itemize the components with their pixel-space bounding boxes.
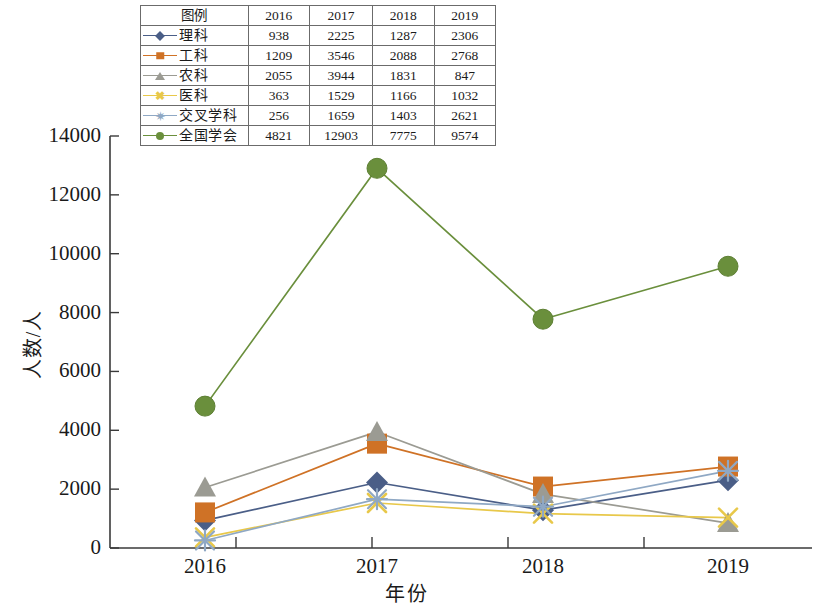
legend-value-cell: 1831	[373, 66, 434, 86]
legend-value-cell: 3944	[310, 66, 373, 86]
legend-series-cell: 工科	[141, 46, 249, 66]
legend-header-year: 2017	[310, 6, 373, 26]
legend-series-label: 医科	[179, 86, 208, 105]
legend-series-cell: 农科	[141, 66, 249, 86]
y-tick-label: 12000	[49, 184, 102, 205]
legend-circle-icon	[156, 132, 164, 140]
data-point-circle	[195, 396, 215, 416]
series-line-square	[205, 444, 728, 513]
legend-data-table: 图例2016201720182019理科938222512872306工科120…	[140, 5, 496, 146]
data-point-square	[195, 502, 215, 522]
data-point-star	[195, 530, 215, 550]
legend-value-cell: 256	[248, 106, 309, 126]
legend-star-icon: ✷	[155, 109, 166, 122]
legend-value-cell: 9574	[434, 126, 495, 146]
data-point-circle	[718, 256, 738, 276]
legend-value-cell: 1032	[434, 86, 495, 106]
y-tick-label: 14000	[49, 125, 102, 146]
data-point-circle	[533, 309, 553, 329]
legend-marker-x: ✖	[143, 87, 177, 104]
legend-diamond-icon	[155, 31, 165, 41]
legend-row: 全国学会48211290377759574	[141, 126, 496, 146]
data-point-triangle	[194, 477, 216, 497]
legend-header-year: 2019	[434, 6, 495, 26]
series-lines	[205, 168, 728, 540]
axis-lines	[110, 136, 812, 548]
legend-triangle-icon	[155, 72, 165, 80]
legend-series-cell: 全国学会	[141, 126, 249, 146]
legend-series-label: 工科	[179, 46, 208, 65]
chart-figure: 14000120001000080006000400020000 2016201…	[0, 0, 815, 606]
legend-value-cell: 1403	[373, 106, 434, 126]
y-tick-label: 2000	[59, 478, 101, 499]
legend-series-cell: 理科	[141, 26, 249, 46]
y-axis-title: 人数/人	[17, 290, 46, 400]
legend-row: ✖医科363152911661032	[141, 86, 496, 106]
legend-value-cell: 12903	[310, 126, 373, 146]
legend-header-year: 2018	[373, 6, 434, 26]
data-point-circle	[367, 158, 387, 178]
legend-value-cell: 2225	[310, 26, 373, 46]
y-tick-label: 0	[91, 537, 102, 558]
legend-value-cell: 1287	[373, 26, 434, 46]
legend-marker-triangle	[143, 67, 177, 84]
legend-series-label: 交叉学科	[179, 106, 237, 125]
legend-header-row: 图例2016201720182019	[141, 6, 496, 26]
legend-series-label: 全国学会	[179, 126, 237, 145]
legend-value-cell: 2088	[373, 46, 434, 66]
data-point-star	[718, 461, 738, 481]
x-tick-label: 2018	[503, 554, 583, 579]
legend-value-cell: 1659	[310, 106, 373, 126]
legend-header-label: 图例	[141, 6, 249, 26]
legend-value-cell: 1529	[310, 86, 373, 106]
legend-marker-circle	[143, 127, 177, 144]
x-tick-label: 2016	[165, 554, 245, 579]
data-point-triangle	[366, 421, 388, 441]
legend-value-cell: 938	[248, 26, 309, 46]
x-axis-title: 年份	[385, 578, 429, 606]
legend-series-cell: ✖医科	[141, 86, 249, 106]
legend-row: 工科1209354620882768	[141, 46, 496, 66]
series-line-x	[205, 503, 728, 537]
legend-value-cell: 2768	[434, 46, 495, 66]
legend-value-cell: 363	[248, 86, 309, 106]
legend-row: 农科205539441831847	[141, 66, 496, 86]
y-tick-label: 10000	[49, 243, 102, 264]
legend-value-cell: 847	[434, 66, 495, 86]
legend-marker-square	[143, 47, 177, 64]
legend-marker-diamond	[143, 27, 177, 44]
legend-value-cell: 4821	[248, 126, 309, 146]
legend-value-cell: 2306	[434, 26, 495, 46]
legend-marker-star: ✷	[143, 107, 177, 124]
y-tick-label: 8000	[59, 302, 101, 323]
legend-value-cell: 2055	[248, 66, 309, 86]
legend-row: 理科938222512872306	[141, 26, 496, 46]
x-tick-label: 2017	[337, 554, 417, 579]
series-line-circle	[205, 168, 728, 406]
legend-value-cell: 7775	[373, 126, 434, 146]
y-tick-label: 6000	[59, 360, 101, 381]
data-point-star	[367, 489, 387, 509]
legend-x-icon: ✖	[155, 90, 165, 102]
legend-value-cell: 1209	[248, 46, 309, 66]
legend-square-icon	[156, 52, 164, 60]
x-tick-label: 2019	[688, 554, 768, 579]
legend-series-label: 农科	[179, 66, 208, 85]
legend-header-year: 2016	[248, 6, 309, 26]
legend-value-cell: 1166	[373, 86, 434, 106]
legend-series-label: 理科	[179, 26, 208, 45]
legend-value-cell: 2621	[434, 106, 495, 126]
y-tick-label: 4000	[59, 419, 101, 440]
legend-value-cell: 3546	[310, 46, 373, 66]
data-point-star	[533, 497, 553, 517]
legend-series-cell: ✷交叉学科	[141, 106, 249, 126]
legend-row: ✷交叉学科256165914032621	[141, 106, 496, 126]
